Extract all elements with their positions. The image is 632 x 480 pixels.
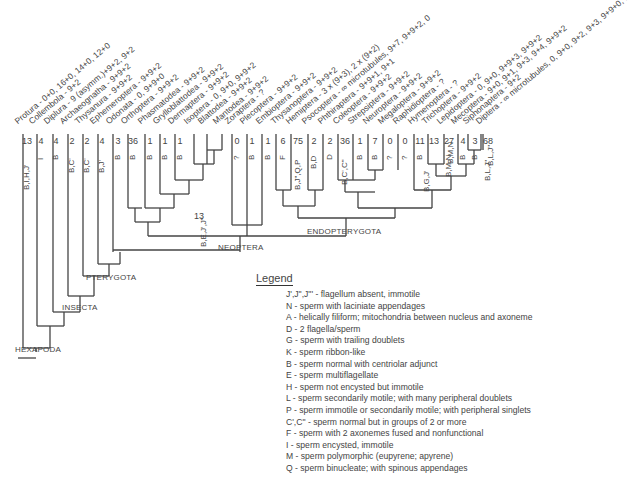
legend-item: J',J",J"' - flagellum absent, immotile: [286, 289, 532, 301]
species-count: 1: [353, 136, 367, 146]
legend-item: L - sperm secondarily motile; with many …: [286, 393, 532, 405]
clade-label-pterygota: PTERYGOTA: [86, 273, 136, 282]
sperm-code: B: [370, 155, 379, 160]
legend-item: G - sperm with trailing doublets: [286, 335, 532, 347]
clade-label-neoptera: NEOPTERA: [218, 243, 264, 252]
sperm-code: B: [113, 155, 122, 160]
legend-item: H - sperm not encysted but immotile: [286, 382, 532, 394]
clade-label-hexapoda: HEXAPODA: [15, 345, 61, 354]
legend-item: C',C" - sperm normal but in groups of 2 …: [286, 417, 532, 429]
sperm-code: B: [160, 155, 169, 160]
species-count: 3: [111, 136, 125, 146]
sperm-code: B: [355, 155, 364, 160]
species-count: 4: [49, 136, 63, 146]
species-count: 4: [95, 136, 109, 146]
species-count: 1: [158, 136, 172, 146]
clade-label-insecta: INSECTA: [62, 303, 97, 312]
node-annotation: B,G,J': [422, 170, 431, 192]
sperm-code: B: [247, 155, 256, 160]
legend-item: M - sperm polymorphic (eupyrene; apyrene…: [286, 451, 532, 463]
species-count: 36: [338, 136, 352, 146]
sperm-code: B: [128, 155, 137, 160]
legend-item: P - sperm immotile or secondarily motile…: [286, 405, 532, 417]
legend: Legend J',J",J"' - flagellum absent, imm…: [256, 268, 532, 475]
species-count: 4: [34, 136, 48, 146]
sperm-code: B,C': [67, 158, 76, 173]
species-count: 13: [427, 136, 441, 146]
legend-item: A - helically filiform; mitochondria bet…: [286, 312, 532, 324]
legend-item: N - sperm with laciniate appendages: [286, 301, 532, 313]
species-count: 0: [383, 136, 397, 146]
legend-item: F - sperm with 2 axonemes fused and nonf…: [286, 428, 532, 440]
species-count: 11: [413, 136, 427, 146]
node-annotation: B,M,N: [446, 142, 455, 164]
sperm-code: ?: [232, 156, 241, 160]
sperm-code: B: [263, 155, 272, 160]
legend-item: B - sperm normal with centriolar adjunct: [286, 359, 532, 371]
clade-label-endopterygota: ENDOPTERYGOTA: [307, 227, 381, 236]
species-count: 2: [323, 136, 337, 146]
sperm-code: I: [36, 158, 45, 160]
species-count: 0: [398, 136, 412, 146]
species-count: 0: [230, 136, 244, 146]
species-count: 75: [291, 136, 305, 146]
sperm-code: B,C',C": [340, 160, 349, 186]
legend-item: Q - sperm binucleate; with spinous appen…: [286, 463, 532, 475]
species-count: 1: [173, 136, 187, 146]
sperm-code: ?: [385, 156, 394, 160]
sperm-code: B,J",Q,P: [293, 159, 302, 189]
species-count: 1: [261, 136, 275, 146]
species-count: 3: [468, 136, 482, 146]
node-annotation: B,E,J',J": [199, 217, 208, 247]
species-count: 36: [126, 136, 140, 146]
sperm-code: B: [458, 155, 467, 160]
species-count: 2: [80, 136, 94, 146]
node-annotation: B,L,J": [486, 145, 495, 166]
sperm-code: B: [470, 155, 479, 160]
species-count: 13: [20, 136, 34, 146]
sperm-code: B: [145, 155, 154, 160]
sperm-code: D: [325, 154, 334, 160]
sperm-code: B,D: [309, 155, 318, 168]
sperm-code: B: [51, 155, 60, 160]
species-count: 2: [65, 136, 79, 146]
sperm-code: B: [175, 155, 184, 160]
sperm-code: ?: [400, 156, 409, 160]
legend-list: J',J",J"' - flagellum absent, immotileN …: [286, 289, 532, 475]
sperm-code: F: [278, 155, 287, 160]
species-count: 2: [307, 136, 321, 146]
legend-title: Legend: [256, 272, 293, 286]
legend-item: I - sperm encysted, immotile: [286, 440, 532, 452]
legend-item: E - sperm multiflagellate: [286, 370, 532, 382]
species-count: 6: [276, 136, 290, 146]
species-count: 7: [368, 136, 382, 146]
species-count: 1: [143, 136, 157, 146]
sperm-code: B,I,H,J': [22, 164, 31, 190]
species-count: 1: [245, 136, 259, 146]
sperm-code: B,J': [97, 160, 106, 173]
sperm-code: B: [415, 155, 424, 160]
sperm-code: B,C': [82, 158, 91, 173]
legend-item: K - sperm ribbon-like: [286, 347, 532, 359]
legend-item: D - 2 flagella/sperm: [286, 324, 532, 336]
